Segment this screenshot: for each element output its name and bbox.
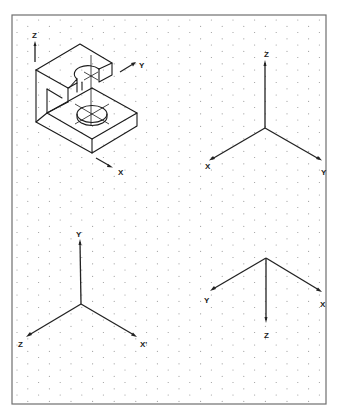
y-label: Y (76, 230, 82, 239)
y-label: Y (139, 61, 145, 70)
x-label: X' (140, 340, 147, 349)
z-label: Z (264, 50, 269, 59)
x-label: X (118, 168, 124, 177)
x-label: X (205, 162, 211, 171)
worksheet-canvas: Z Y X (0, 0, 337, 412)
y-label: Y (204, 296, 210, 305)
z-label: Z (32, 31, 37, 40)
z-label: Z (264, 331, 269, 340)
x-label: X (320, 300, 326, 309)
y-label: Y (321, 168, 327, 177)
z-label: Z (18, 340, 23, 349)
worksheet: Z Y X (0, 0, 337, 412)
sheet-frame (12, 15, 326, 404)
